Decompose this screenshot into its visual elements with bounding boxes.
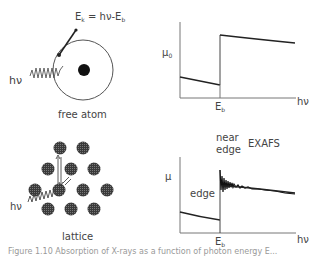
lattice-panel: hν lattice [10, 142, 114, 243]
atom-icon [29, 184, 42, 197]
free-atom-panel: hν Ek = hν-Eb free atom [9, 11, 125, 120]
exafs-envelope [222, 186, 295, 193]
pre-edge-curve [180, 212, 220, 220]
y-axis-label: μ0 [162, 47, 172, 59]
edge-region-label: edge [190, 188, 215, 199]
chart-top: μ0 Eb hν [162, 22, 309, 113]
near-edge-label-line2: edge [216, 144, 241, 155]
atom-icon [42, 163, 55, 176]
lattice-label: lattice [62, 231, 93, 242]
atom-icon [65, 163, 78, 176]
atom-icon [77, 142, 90, 155]
exafs-oscillation [220, 170, 295, 194]
photon-wave-icon [30, 66, 63, 78]
atom-icon [88, 203, 101, 216]
atom-icon [42, 203, 55, 216]
atom-icon [54, 142, 67, 155]
figure-caption: Figure 1.10 Absorption of X-rays as a fu… [8, 247, 277, 256]
edge-energy-label: Eb [215, 101, 225, 113]
photon-label: hν [9, 74, 22, 87]
atom-icon [101, 184, 114, 197]
electron-icon [57, 53, 61, 57]
chart-bottom: μ edge near edge EXAFS Eb hν [165, 132, 309, 248]
kinetic-energy-equation: Ek = hν-Eb [75, 11, 125, 23]
atom-icon [88, 163, 101, 176]
near-edge-label-line1: near [216, 132, 240, 143]
y-axis-label: μ [165, 171, 172, 182]
exafs-label: EXAFS [248, 138, 280, 149]
atom-icon [77, 184, 90, 197]
x-axis-label: hν [297, 96, 309, 107]
lattice-atoms [29, 142, 114, 216]
nucleus-icon [78, 64, 90, 76]
photoelectron-track [59, 30, 76, 55]
atom-icon [65, 203, 78, 216]
ejected-electron-icon [74, 28, 77, 31]
x-axis-label: hν [297, 234, 309, 245]
pre-edge-curve [180, 77, 220, 85]
photon-label: hν [10, 201, 22, 212]
post-edge-curve [220, 35, 295, 43]
free-atom-label: free atom [58, 109, 107, 120]
